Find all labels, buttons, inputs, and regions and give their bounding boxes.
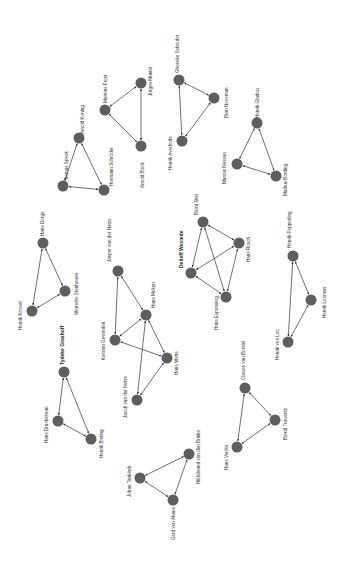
node-label: Tydeke Grashoff: [59, 326, 65, 365]
edge-hans_dorge-wernebe_stenhouen: [46, 248, 63, 285]
node-hans_druckelman[interactable]: [53, 416, 64, 427]
node-henrik_krowet[interactable]: [27, 306, 38, 317]
node-label: Henrik Pepperling: [287, 211, 292, 248]
node-label: Gerd von Ahaus: [171, 506, 176, 540]
edge-hans_moken-jacob_van_der_netze: [138, 321, 146, 394]
node-label: Jacob van der Netze: [123, 375, 128, 418]
edge-henrik_pepperling-henrik_looman: [295, 262, 308, 295]
edge-hans_druckelman-henrik_bleting: [63, 424, 85, 436]
edge-tydeke_grashoff-henrik_bleting: [66, 378, 89, 434]
node-label: Bernd Trawentz: [283, 407, 288, 440]
edge-johan_tankinck-gerd_von_ahaus: [145, 481, 168, 496]
node-label: Hans Espensteg: [214, 296, 219, 330]
node-hans_moken[interactable]: [141, 310, 152, 321]
node-hans_rosch[interactable]: [234, 238, 245, 249]
edge-henrik_gladow-marcus_nessen: [240, 128, 255, 158]
node-hildebrand_von_den_brinke[interactable]: [184, 449, 195, 460]
node-bernd_trawentz[interactable]: [270, 415, 281, 426]
edge-mertens_frost-arnold_block: [109, 114, 137, 142]
node-jasper_van_der_netze[interactable]: [113, 266, 124, 277]
node-kersten_gevenden[interactable]: [110, 335, 121, 346]
edge-hans_rosch-detleff_westede: [196, 246, 234, 270]
edge-henrik_pepperling-henrik_von_loo: [288, 262, 292, 336]
edge-jasper_van_der_netze-hans_moken: [121, 276, 143, 310]
node-label: Brun Noveman: [224, 87, 229, 118]
node-label: Hans Moken: [151, 282, 156, 308]
node-label: Bernt Stiel: [194, 194, 199, 215]
edge-hans_moken-kersten_gevenden: [120, 319, 142, 336]
edge-henrik_gladow-markus_bording: [259, 129, 274, 171]
node-label: Thomas Speek: [64, 150, 69, 182]
node-label: Henrik Bleting: [99, 429, 104, 458]
node-label: Henrik von Loo: [275, 329, 280, 360]
edge-bernd_trawentz-hans_verder: [242, 423, 270, 443]
edge-jasper_van_der_netze-kersten_gevenden: [115, 277, 117, 334]
edge-thomas_speek-hermann_schroder: [69, 187, 98, 190]
node-henrik_looman[interactable]: [306, 295, 317, 306]
node-markus_bording[interactable]: [271, 171, 282, 182]
node-henrik_gladow[interactable]: [252, 118, 263, 129]
edge-clawes_van_borstel-bernd_trawentz: [249, 392, 271, 415]
edge-brun_noveman-henrik_averbode: [186, 103, 211, 136]
edge-tydeke_grashoff-hans_druckelman: [59, 378, 64, 415]
node-marcus_nessen[interactable]: [232, 159, 243, 170]
edge-hans_wytte-jacob_van_der_netze: [140, 363, 163, 395]
node-detleff_westede[interactable]: [186, 268, 197, 279]
edge-detleff_westede-hans_espensteg: [196, 276, 221, 293]
node-jacob_van_der_netze[interactable]: [132, 395, 143, 406]
node-jurgen_munter[interactable]: [136, 78, 147, 89]
edge-hans_moken-hans_wytte: [149, 320, 165, 352]
node-label: Hans Rosch: [246, 237, 251, 262]
node-gheseke_schroder[interactable]: [174, 75, 185, 86]
edge-mertens_frost-jurgen_munter: [110, 87, 136, 107]
edge-wernebe_stenhouen-henrik_krowet: [37, 294, 60, 308]
edge-gheseke_schroder-henrik_averbode: [179, 86, 181, 135]
node-label: Hans Verder: [224, 444, 229, 470]
node-wernebe_stenhouen[interactable]: [60, 286, 71, 297]
node-label: Hans Druckelman: [44, 406, 49, 443]
edge-henrik_looman-henrik_von_loo: [291, 305, 308, 336]
node-hans_espensteg[interactable]: [221, 292, 232, 303]
node-label: Gheseke Schroder: [175, 34, 180, 73]
node-tydeke_grashoff[interactable]: [59, 367, 70, 378]
node-bernt_stiel[interactable]: [198, 217, 209, 228]
node-label: Markus Bording: [283, 163, 288, 196]
node-label: Wernebe Stenhouen: [74, 272, 79, 315]
edge-bernt_stiel-hans_rosch: [208, 225, 234, 240]
edge-marcus_nessen-markus_bording: [243, 166, 271, 174]
edge-gheseke_schroder-brun_noveman: [184, 83, 208, 96]
edge-hans_rosch-hans_espensteg: [227, 249, 237, 291]
node-label: Detleff Westede: [178, 230, 184, 268]
node-johan_tankinck[interactable]: [135, 473, 146, 484]
node-label: Henrik Looman: [322, 286, 327, 318]
edge-johan_tankinck-hildebrand_von_den_brinke: [145, 457, 183, 476]
node-henrik_averbode[interactable]: [177, 136, 188, 147]
node-label: Henrik Krowet: [18, 300, 23, 330]
node-label: Arnold Koning: [80, 105, 85, 134]
edge-bernt_stiel-hans_espensteg: [205, 228, 224, 292]
node-hans_dorge[interactable]: [38, 238, 49, 249]
node-label: Jürgen Munter: [148, 66, 153, 96]
node-hans_wytte[interactable]: [162, 353, 173, 364]
node-label: Arnold Block: [140, 162, 145, 188]
edge-bernt_stiel-detleff_westede: [192, 228, 201, 267]
network-graph: Arnold KoningThomas SpeekHermann Schröde…: [0, 0, 339, 569]
edge-hildebrand_von_den_brinke-gerd_von_ahaus: [175, 460, 187, 495]
edge-arnold_koning-hermann_schroder: [82, 143, 102, 184]
node-gerd_von_ahaus[interactable]: [168, 495, 179, 506]
node-mertens_frost[interactable]: [100, 105, 111, 116]
node-hans_verder[interactable]: [232, 442, 243, 453]
node-label: Hermann Schröder: [109, 147, 114, 186]
node-label: Kersten Gevenden: [101, 321, 106, 360]
node-hermann_schroder[interactable]: [99, 185, 110, 196]
node-henrik_pepperling[interactable]: [288, 251, 299, 262]
node-brun_noveman[interactable]: [209, 93, 220, 104]
node-henrik_bleting[interactable]: [86, 434, 97, 445]
node-clawes_van_borstel[interactable]: [240, 383, 251, 394]
node-label: Mertens Frost: [103, 74, 108, 103]
edge-hans_dorge-henrik_krowet: [33, 249, 42, 305]
node-label: Hildebrand von den Brinke: [196, 429, 201, 484]
node-arnold_block[interactable]: [136, 141, 147, 152]
node-label: Henrik Averbode: [168, 136, 173, 170]
node-henrik_von_loo[interactable]: [283, 337, 294, 348]
